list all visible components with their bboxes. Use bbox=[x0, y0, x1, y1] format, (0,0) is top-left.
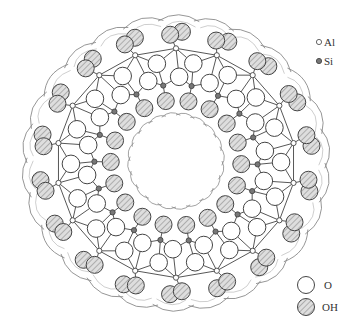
legend-bottom: O OH bbox=[298, 277, 338, 316]
oh-atom bbox=[258, 249, 275, 266]
o-atom bbox=[88, 195, 106, 213]
si-atom bbox=[158, 237, 163, 242]
legend-label-o: O bbox=[324, 279, 332, 291]
cavity-scallop bbox=[199, 188, 213, 201]
o-atom bbox=[78, 166, 96, 184]
al-icon bbox=[316, 39, 321, 44]
o-atom bbox=[114, 67, 132, 85]
cavity-scallop bbox=[128, 143, 134, 161]
o-atom bbox=[115, 242, 133, 260]
oh-atom bbox=[249, 53, 266, 70]
oh-atom bbox=[107, 132, 124, 149]
o-atom bbox=[112, 86, 130, 104]
oh-atom bbox=[37, 182, 54, 199]
legend-top: Al Si bbox=[316, 36, 335, 67]
si-atom bbox=[235, 212, 240, 217]
boundary-scallop bbox=[23, 124, 33, 163]
al-atom bbox=[291, 140, 296, 145]
boundary-scallop bbox=[153, 304, 194, 311]
oh-atom bbox=[136, 100, 153, 117]
cavity-scallop bbox=[176, 113, 194, 119]
boundary-scallop bbox=[305, 197, 321, 234]
cavity-scallop bbox=[220, 147, 225, 166]
boundary-scallop bbox=[189, 297, 229, 309]
o-atom bbox=[150, 254, 168, 272]
cavity-scallop bbox=[158, 203, 176, 209]
o-atom bbox=[170, 68, 188, 86]
oh-atom bbox=[86, 256, 103, 273]
oh-atom bbox=[35, 138, 52, 155]
si-atom bbox=[251, 135, 256, 140]
al-atom bbox=[56, 140, 61, 145]
si-atom bbox=[215, 93, 220, 98]
legend-label-oh: OH bbox=[322, 301, 338, 313]
cavity-scallop bbox=[211, 175, 220, 191]
al-atom bbox=[250, 73, 255, 78]
oh-atom bbox=[229, 134, 246, 151]
o-atom bbox=[79, 136, 97, 154]
o-atom bbox=[185, 55, 203, 73]
o-atom bbox=[139, 72, 157, 90]
oh-atom bbox=[162, 26, 179, 43]
cavity-scallop bbox=[190, 117, 206, 126]
oh-atom bbox=[180, 93, 197, 110]
al-atom bbox=[173, 46, 178, 51]
boundary-scallop bbox=[319, 163, 329, 202]
o-icon bbox=[298, 277, 315, 294]
oh-atom bbox=[49, 95, 66, 112]
oh-atom bbox=[117, 194, 134, 211]
oh-atom bbox=[199, 209, 216, 226]
al-atom bbox=[214, 268, 219, 273]
al-atom bbox=[70, 218, 75, 223]
cavity-scallop bbox=[146, 196, 162, 205]
oh-atom bbox=[157, 93, 174, 110]
oh-atom bbox=[134, 208, 151, 225]
cavity-scallop bbox=[136, 184, 149, 198]
boundary-scallop bbox=[118, 295, 158, 307]
o-atom bbox=[227, 90, 245, 108]
oh-atom bbox=[219, 273, 236, 290]
cavity-scallop bbox=[128, 157, 133, 176]
o-atom bbox=[148, 55, 166, 73]
al-atom bbox=[97, 248, 102, 253]
oh-atom bbox=[116, 36, 133, 53]
al-atom bbox=[70, 103, 75, 108]
oh-atom bbox=[106, 175, 123, 192]
o-atom bbox=[256, 142, 274, 160]
o-atom bbox=[87, 220, 105, 238]
si-atom bbox=[161, 83, 166, 88]
o-atom bbox=[91, 108, 109, 126]
si-atom bbox=[213, 229, 218, 234]
al-atom bbox=[214, 53, 219, 58]
al-atom bbox=[173, 275, 178, 280]
o-atom bbox=[164, 240, 182, 258]
al-atom bbox=[133, 53, 138, 58]
cavity-scallop bbox=[131, 171, 139, 188]
si-atom bbox=[189, 83, 194, 88]
al-atom bbox=[133, 268, 138, 273]
si-atom bbox=[92, 159, 97, 164]
oh-atom bbox=[280, 86, 297, 103]
boundary-scallop bbox=[22, 158, 31, 197]
o-atom bbox=[255, 172, 273, 190]
o-atom bbox=[221, 241, 239, 259]
al-atom bbox=[250, 248, 255, 253]
oh-atom bbox=[118, 113, 135, 130]
o-atom bbox=[62, 155, 80, 173]
cavity-scallop bbox=[213, 134, 221, 151]
o-atom bbox=[69, 190, 87, 208]
o-atom bbox=[195, 236, 213, 254]
oh-icon bbox=[298, 299, 315, 316]
oh-atom bbox=[102, 153, 119, 170]
oh-atom bbox=[300, 171, 317, 188]
cavity-scallop bbox=[139, 121, 153, 134]
oh-atom bbox=[298, 127, 315, 144]
boundary-scallop bbox=[301, 202, 314, 228]
o-atom bbox=[243, 200, 261, 218]
cavity-scallop bbox=[203, 124, 216, 138]
si-atom bbox=[110, 210, 115, 215]
legend-label-si: Si bbox=[324, 55, 333, 67]
oh-atom bbox=[201, 101, 218, 118]
boundary-scallop bbox=[93, 275, 119, 290]
oh-atom bbox=[228, 177, 245, 194]
